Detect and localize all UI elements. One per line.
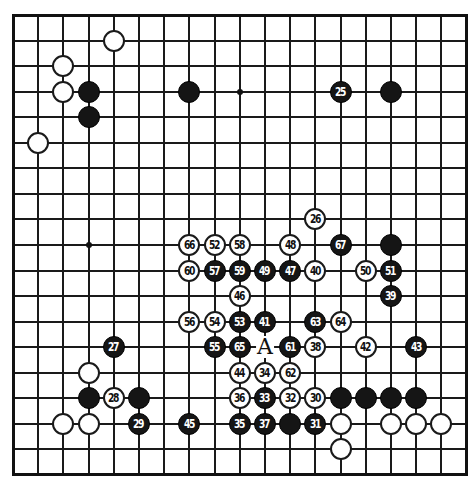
move-number: 64 (335, 315, 346, 329)
white-stone (430, 413, 452, 435)
move-number: 65 (234, 340, 245, 354)
move-number: 34 (259, 366, 270, 380)
move-number: 43 (411, 340, 422, 354)
black-stone (380, 387, 402, 409)
white-stone (78, 413, 100, 435)
move-number: 40 (310, 264, 321, 278)
black-stone: 45 (178, 413, 200, 435)
white-stone: 40 (304, 260, 326, 282)
move-number: 51 (385, 264, 396, 278)
black-stone: 49 (254, 260, 276, 282)
black-stone (279, 413, 301, 435)
move-number: 49 (259, 264, 270, 278)
black-stone: 31 (304, 413, 326, 435)
white-stone (380, 413, 402, 435)
black-stone: 63 (304, 311, 326, 333)
black-stone: 35 (229, 413, 251, 435)
black-stone: 59 (229, 260, 251, 282)
white-stone: 38 (304, 336, 326, 358)
white-stone: 56 (178, 311, 200, 333)
white-stone: 50 (355, 260, 377, 282)
move-number: 67 (335, 238, 346, 252)
white-stone: 46 (229, 285, 251, 307)
black-stone: 67 (330, 234, 352, 256)
black-stone: 43 (405, 336, 427, 358)
move-number: 46 (234, 289, 245, 303)
white-stone: 66 (178, 234, 200, 256)
white-stone (405, 413, 427, 435)
move-number: 25 (335, 85, 346, 99)
black-stone: 57 (204, 260, 226, 282)
black-stone (128, 387, 150, 409)
white-stone: 60 (178, 260, 200, 282)
black-stone: 25 (330, 81, 352, 103)
move-number: 66 (184, 238, 195, 252)
white-stone: 28 (103, 387, 125, 409)
white-stone: 58 (229, 234, 251, 256)
move-number: 31 (310, 417, 321, 431)
point-label: A (256, 336, 274, 358)
move-number: 45 (184, 417, 195, 431)
black-stone: 61 (279, 336, 301, 358)
black-stone (330, 387, 352, 409)
move-number: 47 (285, 264, 296, 278)
black-stone (380, 234, 402, 256)
move-number: 41 (259, 315, 270, 329)
move-number: 62 (285, 366, 296, 380)
move-number: 48 (285, 238, 296, 252)
move-number: 33 (259, 391, 270, 405)
white-stone (330, 413, 352, 435)
black-stone: 65 (229, 336, 251, 358)
white-stone: 64 (330, 311, 352, 333)
black-stone (380, 81, 402, 103)
black-stone: 51 (380, 260, 402, 282)
move-number: 39 (385, 289, 396, 303)
move-number: 58 (234, 238, 245, 252)
black-stone (178, 81, 200, 103)
white-stone: 52 (204, 234, 226, 256)
white-stone: 44 (229, 362, 251, 384)
white-stone (103, 30, 125, 52)
white-stone (78, 362, 100, 384)
black-stone: 29 (128, 413, 150, 435)
black-stone: 53 (229, 311, 251, 333)
white-stone: 26 (304, 208, 326, 230)
black-stone: 39 (380, 285, 402, 307)
move-number: 42 (360, 340, 371, 354)
move-number: 57 (209, 264, 220, 278)
black-stone (405, 387, 427, 409)
white-stone: 54 (204, 311, 226, 333)
move-number: 52 (209, 238, 220, 252)
move-number: 38 (310, 340, 321, 354)
move-number: 44 (234, 366, 245, 380)
white-stone: 34 (254, 362, 276, 384)
move-number: 54 (209, 315, 220, 329)
move-number: 30 (310, 391, 321, 405)
black-stone (78, 106, 100, 128)
star-point (237, 89, 243, 95)
go-board-diagram: 2526665258486760575949474050514639565453… (0, 0, 473, 503)
move-number: 60 (184, 264, 195, 278)
white-stone: 48 (279, 234, 301, 256)
move-number: 56 (184, 315, 195, 329)
move-number: 55 (209, 340, 220, 354)
black-stone: 47 (279, 260, 301, 282)
white-stone: 62 (279, 362, 301, 384)
white-stone: 42 (355, 336, 377, 358)
move-number: 63 (310, 315, 321, 329)
black-stone (355, 387, 377, 409)
white-stone (52, 55, 74, 77)
move-number: 28 (108, 391, 119, 405)
move-number: 27 (108, 340, 119, 354)
move-number: 32 (285, 391, 296, 405)
black-stone (78, 81, 100, 103)
white-stone: 32 (279, 387, 301, 409)
black-stone: 41 (254, 311, 276, 333)
star-point (86, 242, 92, 248)
move-number: 35 (234, 417, 245, 431)
black-stone: 55 (204, 336, 226, 358)
move-number: 61 (285, 340, 296, 354)
white-stone: 30 (304, 387, 326, 409)
white-stone (330, 438, 352, 460)
white-stone (52, 413, 74, 435)
